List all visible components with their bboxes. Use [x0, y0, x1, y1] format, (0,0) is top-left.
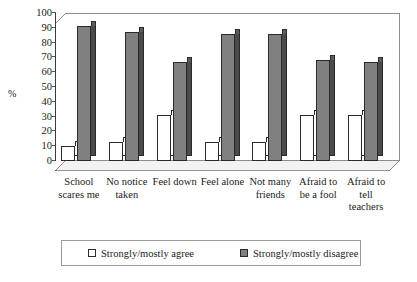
bar-front-face	[157, 115, 171, 161]
bar-side-face	[187, 57, 192, 156]
bar-front-face	[109, 142, 123, 161]
bar-side-face	[378, 57, 383, 156]
bar-front-face	[61, 146, 75, 161]
bar-side-face	[330, 55, 335, 156]
bar-group	[157, 13, 205, 161]
bar-front-face	[300, 115, 314, 161]
x-category-label: Afraid totellteachers	[338, 176, 394, 214]
y-axis-title: %	[8, 88, 17, 99]
x-category-label-line: tell	[338, 189, 394, 202]
bar-top-face	[378, 57, 383, 62]
x-category-label-line: teachers	[338, 201, 394, 214]
bar-front-face	[364, 62, 378, 161]
legend-swatch-disagree	[240, 249, 248, 257]
bar	[300, 115, 314, 161]
y-tick-label: 100	[36, 8, 52, 17]
bar-group	[348, 13, 396, 161]
bar-front-face	[205, 142, 219, 161]
x-axis-category-labels: Schoolscares meNo noticetakenFeel downFe…	[55, 176, 415, 222]
bar	[221, 34, 235, 161]
bar-top-face	[235, 29, 240, 34]
legend-item[interactable]: Strongly/mostly agree	[88, 248, 194, 259]
bar-side-face	[235, 29, 240, 156]
bar	[61, 146, 75, 161]
bar-top-face	[330, 55, 335, 60]
bar-front-face	[125, 32, 139, 161]
bar-front-face	[348, 115, 362, 161]
legend-label: Strongly/mostly agree	[101, 248, 194, 259]
bar-front-face	[316, 60, 330, 161]
bar	[109, 142, 123, 161]
bar-top-face	[91, 21, 96, 26]
legend-label: Strongly/mostly disagree	[253, 248, 358, 259]
bar-top-face	[139, 27, 144, 32]
bar	[77, 26, 91, 161]
bar-group	[61, 13, 109, 161]
y-tick-label: 70	[42, 52, 53, 61]
y-tick-label: 80	[42, 38, 53, 47]
bar-top-face	[282, 29, 287, 34]
bar-front-face	[77, 26, 91, 161]
x-category-label-line: taken	[99, 189, 155, 202]
bar	[316, 60, 330, 161]
bar	[205, 142, 219, 161]
y-tick-label: 50	[42, 82, 53, 91]
bar-chart: % 0102030405060708090100 Schoolscares me…	[0, 0, 417, 282]
chart-legend: Strongly/mostly agreeStrongly/mostly dis…	[61, 240, 361, 266]
bar-group	[252, 13, 300, 161]
y-tick-label: 10	[42, 141, 53, 150]
y-tick-label: 60	[42, 67, 53, 76]
y-tick-label: 90	[42, 23, 53, 32]
bar-front-face	[173, 62, 187, 161]
bar-side-face	[282, 29, 287, 156]
bar-group	[205, 13, 253, 161]
plot-floor	[55, 160, 400, 171]
y-tick-label: 30	[42, 112, 53, 121]
plot-area	[55, 13, 400, 171]
bar-group	[109, 13, 157, 161]
bar	[173, 62, 187, 161]
bar-group	[300, 13, 348, 161]
bar-front-face	[268, 34, 282, 161]
bar	[268, 34, 282, 161]
x-category-label-line: Afraid to	[338, 176, 394, 189]
bar	[364, 62, 378, 161]
legend-swatch-agree	[88, 249, 96, 257]
bar-side-face	[139, 27, 144, 156]
bar-side-face	[91, 21, 96, 156]
y-tick-label: 40	[42, 97, 53, 106]
bar-front-face	[252, 142, 266, 161]
bar-front-face	[221, 34, 235, 161]
bar	[348, 115, 362, 161]
bar-top-face	[187, 57, 192, 62]
bar-series-container	[55, 13, 400, 161]
legend-item[interactable]: Strongly/mostly disagree	[240, 248, 358, 259]
bar	[125, 32, 139, 161]
bar	[157, 115, 171, 161]
bar	[252, 142, 266, 161]
y-axis-tick-labels: 0102030405060708090100	[26, 12, 52, 170]
y-tick-label: 20	[42, 126, 53, 135]
